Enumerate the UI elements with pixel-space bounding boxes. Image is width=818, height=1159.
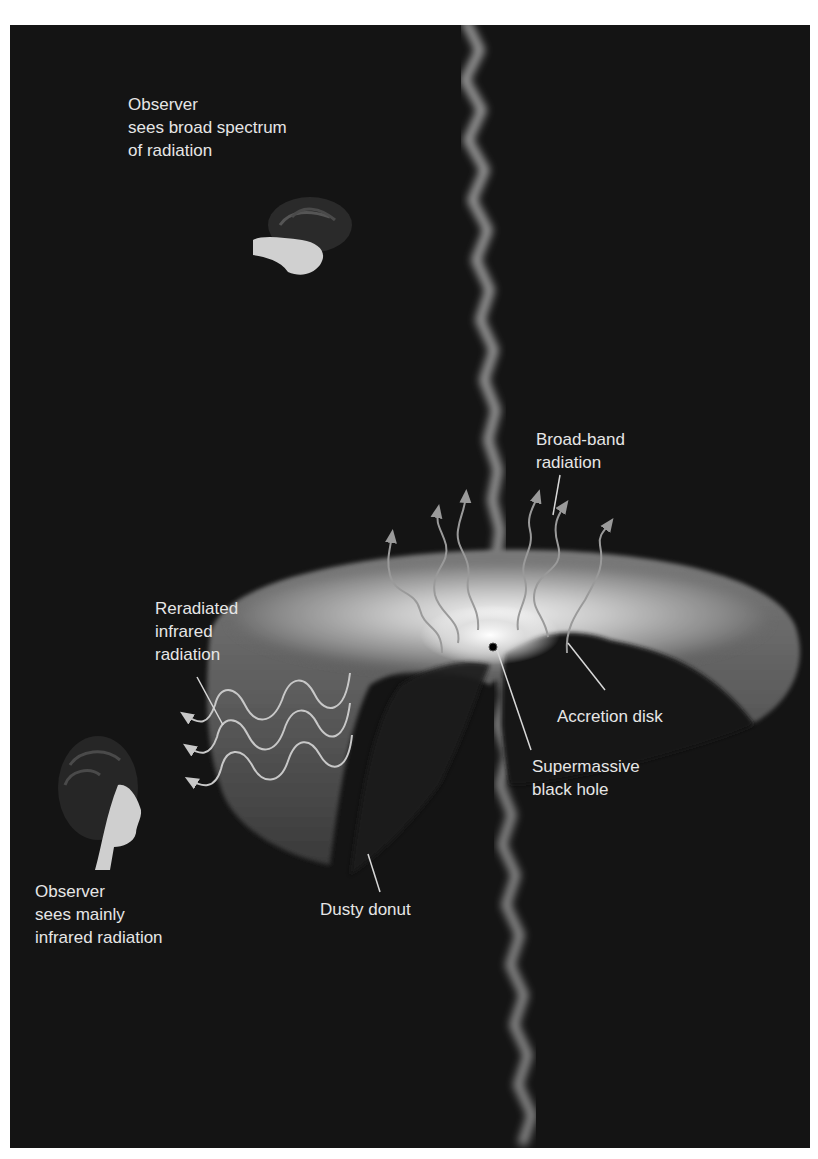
diagram-panel: Observer sees broad spectrum of radiatio… bbox=[10, 25, 810, 1148]
label-observer-top: Observer sees broad spectrum of radiatio… bbox=[128, 93, 287, 162]
leader-dusty-donut bbox=[368, 854, 380, 892]
jet-upper bbox=[465, 25, 502, 620]
observer-face-looking-right bbox=[58, 736, 141, 870]
agn-illustration bbox=[10, 25, 810, 1148]
label-reradiated-infrared: Reradiated infrared radiation bbox=[155, 597, 238, 666]
label-supermassive-black-hole: Supermassive black hole bbox=[532, 755, 640, 801]
label-accretion-disk: Accretion disk bbox=[557, 705, 663, 728]
leader-broad-band bbox=[553, 475, 560, 515]
label-observer-side: Observer sees mainly infrared radiation bbox=[35, 880, 163, 949]
label-dusty-donut: Dusty donut bbox=[320, 898, 411, 921]
observer-face-looking-down bbox=[253, 197, 352, 275]
black-hole-dot bbox=[489, 643, 497, 651]
label-broad-band-radiation: Broad-band radiation bbox=[536, 428, 625, 474]
